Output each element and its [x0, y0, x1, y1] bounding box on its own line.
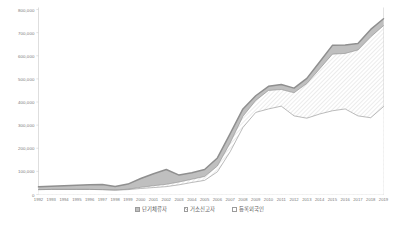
x-tick-label: 1999 [123, 197, 132, 202]
series-area-1 [39, 106, 384, 194]
legend-label: 거소신고자 [190, 207, 215, 212]
legend-swatch-icon [135, 207, 140, 212]
areas-layer [39, 19, 384, 195]
y-tick-label: 200,000 [2, 146, 35, 151]
x-tick-label: 1997 [98, 197, 107, 202]
legend-label: 등록외국인 [239, 207, 264, 212]
x-tick-label: 2002 [162, 197, 171, 202]
legend-item-3[interactable]: 등록외국인 [232, 207, 264, 212]
x-tick-label: 2015 [328, 197, 337, 202]
chart-legend: 단기체류자거소신고자등록외국인 [0, 207, 399, 212]
x-tick-label: 1993 [47, 197, 56, 202]
legend-label: 단기체류자 [142, 207, 167, 212]
x-tick-label: 2012 [289, 197, 298, 202]
x-tick-label: 2010 [264, 197, 273, 202]
x-tick-label: 2018 [366, 197, 375, 202]
y-tick-label: 600,000 [2, 53, 35, 58]
x-tick-label: 2008 [238, 197, 247, 202]
y-tick-label: 100,000 [2, 169, 35, 174]
x-tick-label: 2011 [277, 197, 286, 202]
x-tick-label: 1998 [110, 197, 119, 202]
x-tick-label: 2014 [315, 197, 324, 202]
y-tick-label: 800,000 [2, 7, 35, 12]
x-tick-label: 2013 [302, 197, 311, 202]
x-tick-label: 2003 [174, 197, 183, 202]
y-tick-label: 0 [2, 192, 35, 197]
x-tick-label: 1992 [34, 197, 43, 202]
x-tick-label: 2009 [251, 197, 260, 202]
x-tick-label: 2019 [379, 197, 388, 202]
y-tick-label: 400,000 [2, 100, 35, 105]
x-tick-label: 1995 [72, 197, 81, 202]
x-tick-label: 2005 [200, 197, 209, 202]
x-tick-label: 2016 [340, 197, 349, 202]
legend-item-1[interactable]: 단기체류자 [135, 207, 167, 212]
legend-swatch-icon [232, 207, 237, 212]
x-tick-label: 1996 [85, 197, 94, 202]
x-tick-label: 2007 [225, 197, 234, 202]
y-tick-label: 500,000 [2, 76, 35, 81]
area-chart-plot [0, 0, 399, 230]
x-tick-label: 2000 [136, 197, 145, 202]
x-tick-label: 2001 [149, 197, 158, 202]
legend-item-2[interactable]: 거소신고자 [184, 207, 216, 212]
x-tick-label: 1994 [59, 197, 68, 202]
x-tick-label: 2006 [213, 197, 222, 202]
y-tick-label: 300,000 [2, 123, 35, 128]
y-tick-label: 700,000 [2, 30, 35, 35]
x-tick-label: 2004 [187, 197, 196, 202]
x-tick-label: 2017 [353, 197, 362, 202]
legend-swatch-icon [184, 207, 189, 212]
chart-container: 800,000700,000600,000500,000400,000300,0… [0, 0, 399, 230]
